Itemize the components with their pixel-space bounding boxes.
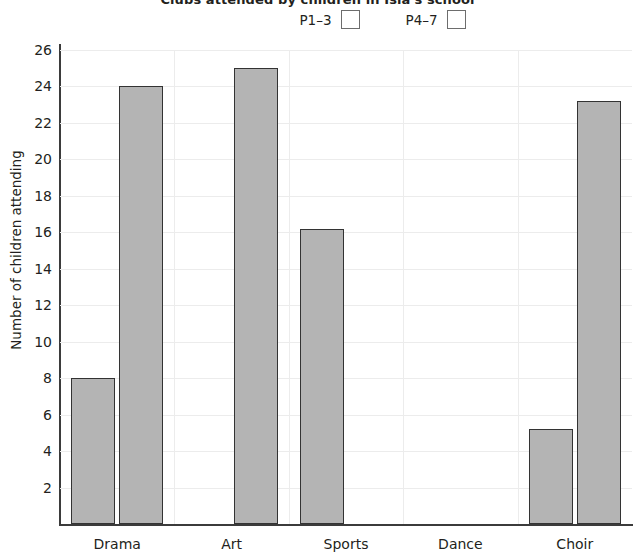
legend-swatch-p1-3 [341, 10, 360, 29]
bar-choir-p1-3 [529, 429, 573, 524]
legend-swatch-p4-7 [447, 10, 466, 29]
y-axis-tick-label: 16 [34, 224, 52, 240]
x-axis-labels: DramaArtSportsDanceChoir [60, 536, 632, 560]
y-axis-tick-label: 14 [34, 261, 52, 277]
y-axis-tick-label: 22 [34, 115, 52, 131]
legend-label-p4-7: P4–7 [406, 12, 438, 28]
bar-sports-p1-3 [300, 229, 344, 524]
x-axis-label-art: Art [221, 536, 242, 552]
x-axis-label-sports: Sports [324, 536, 369, 552]
x-axis-label-dance: Dance [438, 536, 483, 552]
x-axis-label-drama: Drama [94, 536, 141, 552]
legend-item-p1-3[interactable]: P1–3 [299, 10, 359, 29]
y-axis-tick-label: 6 [43, 407, 52, 423]
gridline-vertical [403, 50, 404, 524]
x-axis-label-choir: Choir [556, 536, 593, 552]
bar-art-p4-7 [234, 68, 278, 524]
gridline [60, 50, 632, 51]
gridline-vertical [518, 50, 519, 524]
y-axis-tick-label: 26 [34, 42, 52, 58]
y-axis-tick-label: 4 [43, 443, 52, 459]
gridline-vertical [289, 50, 290, 524]
y-axis-tick-label: 18 [34, 188, 52, 204]
bar-drama-p4-7 [119, 86, 163, 524]
gridline-vertical [174, 50, 175, 524]
y-axis-tick-label: 20 [34, 151, 52, 167]
y-axis-title: Number of children attending [8, 130, 24, 370]
y-axis-tick-label: 2 [43, 480, 52, 496]
y-axis-tick-label: 10 [34, 334, 52, 350]
plot-area [60, 50, 632, 524]
y-axis-tick-label: 24 [34, 78, 52, 94]
y-axis-tick-label: 8 [43, 370, 52, 386]
legend-label-p1-3: P1–3 [299, 12, 331, 28]
legend-item-p4-7[interactable]: P4–7 [406, 10, 466, 29]
chart-title: Clubs attended by children in Isla's sch… [0, 0, 635, 7]
bar-drama-p1-3 [71, 378, 115, 524]
bar-choir-p4-7 [577, 101, 621, 524]
y-axis-tick-label: 12 [34, 297, 52, 313]
x-axis-line [59, 524, 633, 526]
chart-legend: P1–3 P4–7 [0, 10, 635, 29]
bar-chart: Clubs attended by children in Isla's sch… [0, 0, 635, 560]
